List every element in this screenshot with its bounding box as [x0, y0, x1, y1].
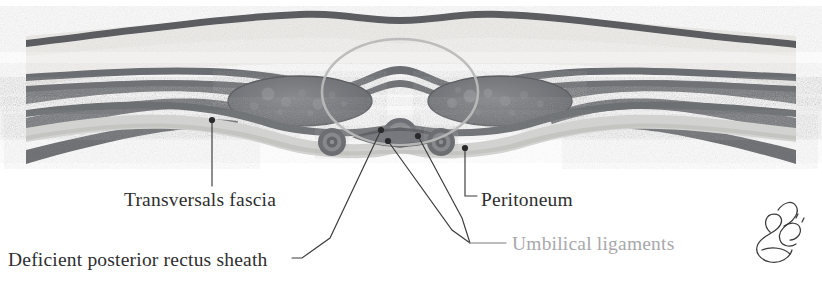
- label-umbilical-ligaments: Umbilical ligaments: [512, 233, 674, 254]
- label-peritoneum: Peritoneum: [481, 189, 573, 210]
- label-deficient-posterior-rectus-sheath: Deficient posterior rectus sheath: [8, 249, 268, 270]
- label-transversals-fascia: Transversals fascia: [124, 189, 276, 210]
- abdominal-wall-cross-section: Transversals fascia Deficient posterior …: [0, 0, 822, 297]
- leader-dot-umbilical-left: [385, 138, 391, 144]
- umbilical-ligament-left: [318, 128, 346, 156]
- leader-dot-transversals-fascia: [209, 117, 215, 123]
- leader-dot-deficient-sheath: [378, 127, 384, 133]
- leader-dot-umbilical-right: [415, 133, 421, 139]
- anatomical-figure: Transversals fascia Deficient posterior …: [0, 0, 822, 297]
- leader-dot-peritoneum: [462, 145, 468, 151]
